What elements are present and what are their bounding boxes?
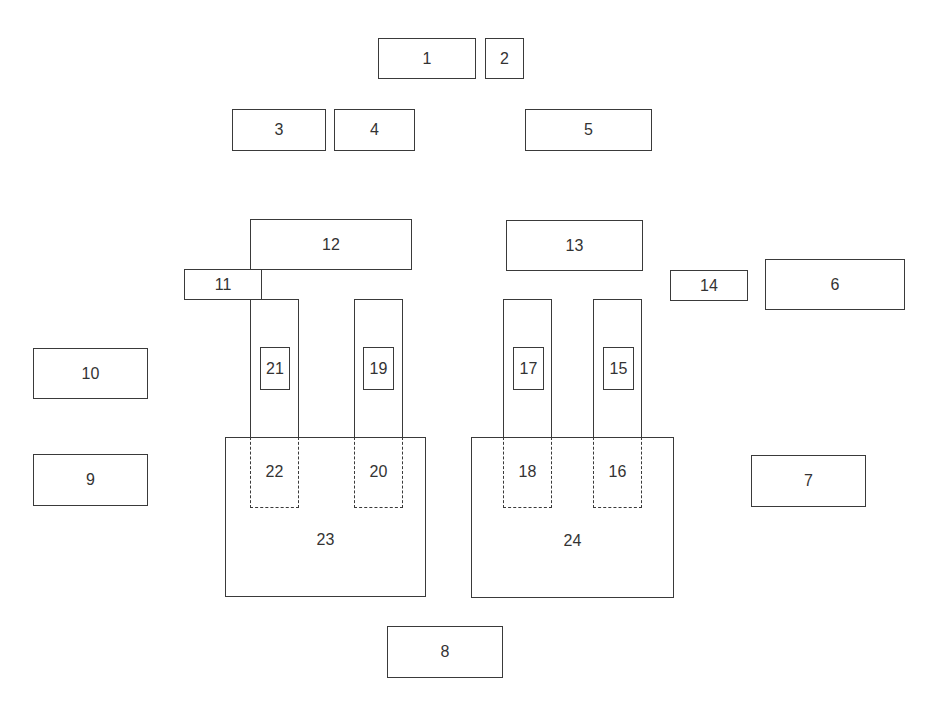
box-2: 2	[485, 38, 524, 79]
box-22: 22	[250, 437, 299, 508]
box-16: 16	[593, 437, 642, 508]
box-8-label: 8	[441, 644, 450, 660]
box-14: 14	[670, 270, 748, 301]
box-15: 15	[603, 347, 634, 390]
box-20-label: 20	[370, 464, 388, 480]
box-3-label: 3	[275, 122, 284, 138]
box-14-label: 14	[700, 278, 718, 294]
box-13: 13	[506, 220, 643, 271]
box-5: 5	[525, 109, 652, 151]
box-7: 7	[751, 455, 866, 507]
box-16-label: 16	[609, 464, 627, 480]
box-3: 3	[232, 109, 326, 151]
box-10-label: 10	[82, 366, 100, 382]
box-21: 21	[260, 347, 290, 390]
box-7-label: 7	[804, 473, 813, 489]
box-11: 11	[184, 269, 262, 300]
box-9-label: 9	[86, 472, 95, 488]
box-13-label: 13	[566, 238, 584, 254]
box-5-label: 5	[584, 122, 593, 138]
box-21-label: 21	[266, 361, 284, 377]
box-1-label: 1	[423, 51, 432, 67]
box-22-label: 22	[266, 464, 284, 480]
box-8: 8	[387, 626, 503, 678]
box-15-label: 15	[610, 361, 628, 377]
box-17: 17	[513, 347, 544, 390]
box-4: 4	[334, 109, 415, 151]
box-12-label: 12	[322, 237, 340, 253]
box-17-label: 17	[520, 361, 538, 377]
box-10: 10	[33, 348, 148, 399]
box-18: 18	[503, 437, 552, 508]
box-9: 9	[33, 454, 148, 506]
box-6-label: 6	[831, 277, 840, 293]
box-1: 1	[378, 38, 476, 79]
box-4-label: 4	[370, 122, 379, 138]
box-19: 19	[363, 347, 394, 390]
box-20: 20	[354, 437, 403, 508]
box-23-label: 23	[317, 532, 335, 548]
box-19-label: 19	[370, 361, 388, 377]
box-24-label: 24	[564, 533, 582, 549]
box-6: 6	[765, 259, 905, 310]
box-11-label: 11	[215, 277, 232, 293]
box-2-label: 2	[500, 51, 509, 67]
box-24: 24	[471, 437, 674, 598]
box-12: 12	[250, 219, 412, 270]
box-18-label: 18	[519, 464, 537, 480]
diagram-canvas: 23 24 21 19 17 15 22 20 18 16 1 2 3 4	[0, 0, 940, 708]
